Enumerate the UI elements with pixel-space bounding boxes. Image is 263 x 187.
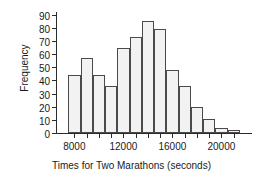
histogram-bar — [166, 70, 178, 133]
y-tick-label: 60 — [28, 51, 50, 61]
histogram-bar — [117, 48, 129, 133]
x-tick-mark — [111, 134, 112, 138]
y-tick-mark — [52, 41, 56, 42]
x-tick-mark — [185, 134, 186, 138]
x-tick-label: 8000 — [54, 141, 94, 152]
y-tick-mark — [52, 80, 56, 81]
x-tick-label: 16000 — [152, 141, 192, 152]
histogram-bar — [215, 128, 227, 133]
histogram-bar — [228, 130, 240, 133]
y-tick-mark — [52, 107, 56, 108]
histogram-bar — [130, 37, 142, 133]
x-tick-mark — [74, 134, 75, 138]
plot-area — [56, 12, 252, 133]
x-axis-title: Times for Two Marathons (seconds) — [0, 160, 263, 172]
y-tick-mark — [52, 15, 56, 16]
histogram-bar — [81, 58, 93, 133]
x-tick-mark — [234, 134, 235, 138]
y-axis-tick-labels: 0102030405060708090 — [28, 14, 50, 132]
x-tick-mark — [197, 134, 198, 138]
x-tick-label: 12000 — [103, 141, 143, 152]
histogram-bar — [203, 119, 215, 133]
x-tick-mark — [123, 134, 124, 138]
histogram-bar — [179, 86, 191, 133]
x-tick-mark — [221, 134, 222, 138]
histogram-bar — [68, 75, 80, 133]
x-tick-mark — [99, 134, 100, 138]
histogram-bar — [93, 75, 105, 133]
y-tick-label: 80 — [28, 25, 50, 35]
histogram-bar — [191, 107, 203, 133]
y-tick-label: 30 — [28, 91, 50, 101]
x-tick-mark — [160, 134, 161, 138]
y-tick-label: 90 — [28, 12, 50, 22]
x-tick-mark — [148, 134, 149, 138]
y-tick-mark — [52, 133, 56, 134]
x-tick-label: 20000 — [201, 141, 241, 152]
x-axis-line — [56, 133, 252, 134]
histogram-figure: Frequency 0102030405060708090 Times for … — [0, 0, 263, 187]
histogram-bar — [154, 29, 166, 133]
y-tick-mark — [52, 67, 56, 68]
x-tick-mark — [172, 134, 173, 138]
y-tick-label: 20 — [28, 104, 50, 114]
y-tick-mark — [52, 54, 56, 55]
y-tick-label: 50 — [28, 64, 50, 74]
y-tick-label: 70 — [28, 38, 50, 48]
y-tick-label: 10 — [28, 117, 50, 127]
x-tick-mark — [136, 134, 137, 138]
x-tick-mark — [87, 134, 88, 138]
y-tick-label: 0 — [28, 130, 50, 140]
x-tick-mark — [209, 134, 210, 138]
histogram-bar — [105, 86, 117, 133]
y-tick-mark — [52, 28, 56, 29]
y-tick-mark — [52, 120, 56, 121]
y-tick-label: 40 — [28, 77, 50, 87]
y-tick-mark — [52, 94, 56, 95]
histogram-bar — [142, 21, 154, 133]
